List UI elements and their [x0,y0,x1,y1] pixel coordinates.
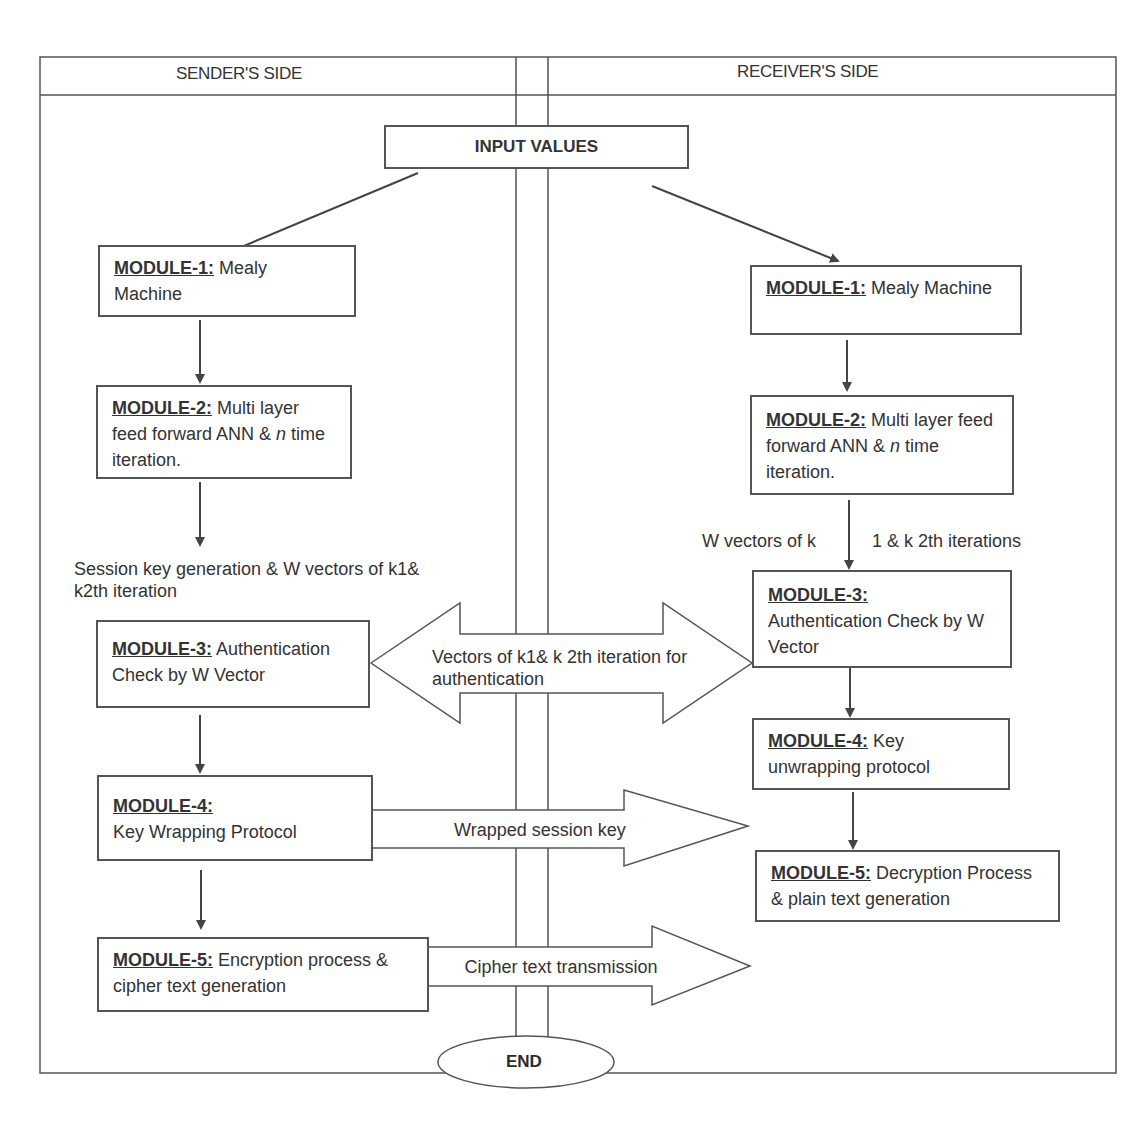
module-id: MODULE-4: [113,793,357,819]
receiver-module-1: MODULE-1: Mealy Machine [750,265,1022,335]
receiver-module-2: MODULE-2: Multi layer feed forward ANN &… [750,395,1014,495]
cipher-label: Cipher text transmission [446,956,676,978]
module-text: Mealy Machine [871,278,992,298]
sender-side-header: SENDER'S SIDE [176,64,302,84]
receiver-module-4: MODULE-4: Key unwrapping protocol [752,718,1010,790]
module-text-italic: n [276,424,286,444]
wrapped-key-label: Wrapped session key [440,819,640,841]
module-id: MODULE-2: [766,410,866,430]
module-id: MODULE-2: [112,398,212,418]
w-vectors-note-left: W vectors of k [702,530,816,552]
sender-module-5: MODULE-5: Encryption process & cipher te… [97,937,429,1012]
w-vectors-note-right: 1 & k 2th iterations [872,530,1021,552]
auth-flow-label: Vectors of k1& k 2th iteration for authe… [432,646,702,690]
sender-module-1: MODULE-1: Mealy Machine [98,245,356,317]
module-id: MODULE-1: [114,258,214,278]
end-label: END [506,1052,542,1072]
module-text-italic: n [890,436,900,456]
sender-module-4: MODULE-4: Key Wrapping Protocol [97,775,373,861]
sender-module-2: MODULE-2: Multi layer feed forward ANN &… [96,385,352,479]
input-values-box: INPUT VALUES [384,125,689,169]
input-values-label: INPUT VALUES [475,134,598,160]
module-id: MODULE-3: [768,582,996,608]
sender-module-3: MODULE-3: Authentication Check by W Vect… [96,620,370,708]
receiver-module-3: MODULE-3: Authentication Check by W Vect… [752,570,1012,668]
module-id: MODULE-1: [766,278,866,298]
arrow-input-to-receiver [652,186,838,261]
receiver-side-header: RECEIVER'S SIDE [737,62,878,82]
module-text: Authentication Check by W Vector [768,608,996,660]
session-key-note: Session key generation & W vectors of k1… [74,558,424,602]
module-id: MODULE-4: [768,731,868,751]
module-id: MODULE-5: [113,950,213,970]
module-text: Key Wrapping Protocol [113,819,357,845]
module-id: MODULE-5: [771,863,871,883]
receiver-module-5: MODULE-5: Decryption Process & plain tex… [755,850,1060,922]
module-id: MODULE-3: [112,639,212,659]
